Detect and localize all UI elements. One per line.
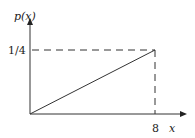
chart: p(x) 1/4 8 x [0, 0, 195, 138]
data-line [30, 50, 155, 114]
y-axis-label: p(x) [14, 10, 36, 23]
x-axis-arrow [180, 111, 187, 117]
y-tick-label: 1/4 [8, 44, 26, 57]
x-axis-label: x [169, 122, 176, 135]
x-tick-label: 8 [152, 122, 159, 135]
